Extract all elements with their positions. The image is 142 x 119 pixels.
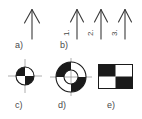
panel-b-arrow-2-label: 2.	[87, 29, 95, 36]
panel-d-label: d)	[58, 101, 66, 110]
checker-annulus-icon	[48, 56, 94, 98]
panel-b-arrow-3-label: 3.	[111, 29, 119, 36]
panel-a	[14, 6, 50, 40]
arrow-single-icon	[14, 6, 50, 40]
figure-panel-group: a) 1. 2. 3. b)	[0, 0, 142, 119]
panel-d	[48, 56, 94, 98]
panel-e-label: e)	[107, 101, 115, 110]
panel-e	[98, 64, 134, 90]
checker-disc-icon	[6, 58, 44, 94]
checker-rect-icon	[98, 64, 134, 90]
panel-b-arrow-1-label: 1.	[63, 29, 71, 36]
panel-a-label: a)	[15, 41, 23, 50]
panel-c-label: c)	[15, 101, 23, 110]
panel-c	[6, 58, 44, 94]
panel-b-label: b)	[60, 41, 68, 50]
